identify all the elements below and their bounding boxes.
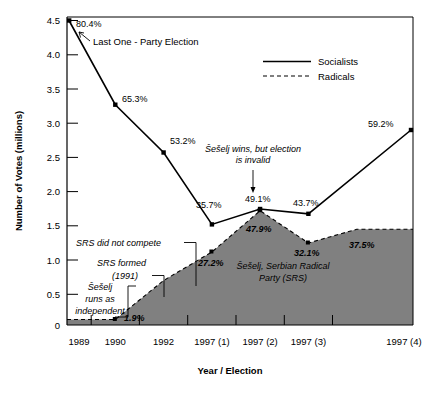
y-axis-title: Number of Votes (millions)	[13, 111, 24, 231]
y-tick-label: 0	[55, 320, 60, 331]
x-tick-label: 1997 (4)	[386, 336, 421, 347]
area-label-line2: Party (SRS)	[259, 273, 307, 283]
x-tick-label: 1997 (1)	[194, 336, 229, 347]
annotation-seselj-indep-line1: Šešelj	[88, 282, 114, 292]
annotation-seselj-wins-line1: Šešelj wins, but election	[205, 144, 301, 154]
y-tick-label: 1.5	[47, 220, 60, 231]
y-tick-label: 4.0	[47, 49, 60, 60]
socialists-marker-1990	[113, 103, 117, 107]
annotation-srs-formed-line2: (1991)	[112, 271, 138, 281]
y-tick-label: 4.5	[47, 15, 60, 26]
socialists-pct-label-1989: 80.4%	[76, 19, 102, 29]
x-tick-labels: 1989 1990 1992 1997 (1) 1997 (2) 1997 (3…	[68, 336, 421, 347]
socialists-pct-label-1990: 65.3%	[122, 94, 148, 104]
y-tick-labels: 4.5 4.0 3.5 3.0 2.5 2.0 1.5 1.0 0.5 0	[47, 15, 60, 331]
socialists-marker-1997-3	[306, 212, 310, 216]
socialists-marker-1992	[161, 150, 165, 154]
legend-label-socialists: Socialists	[318, 56, 358, 67]
radicals-pct-label-1997-3: 32.1%	[294, 248, 320, 258]
x-tick-label: 1990	[105, 336, 126, 347]
x-tick-label: 1997 (2)	[242, 336, 277, 347]
radicals-marker-1997-1	[209, 250, 213, 254]
election-votes-chart: 4.5 4.0 3.5 3.0 2.5 2.0 1.5 1.0 0.5 0 19…	[0, 0, 444, 396]
radicals-pct-label-1997-2: 47.9%	[245, 224, 272, 234]
x-axis-title: Year / Election	[198, 365, 263, 376]
legend-label-radicals: Radicals	[318, 71, 355, 82]
radicals-marker-1990	[113, 317, 117, 321]
y-tick-label: 0.5	[47, 289, 60, 300]
x-tick-label: 1989	[68, 336, 89, 347]
y-tick-label: 1.0	[47, 255, 60, 266]
y-tick-label: 3.5	[47, 84, 60, 95]
y-tick-label: 3.0	[47, 118, 60, 129]
radicals-marker-1997-3	[306, 241, 310, 245]
socialists-pct-label-1997-3: 43.7%	[293, 198, 319, 208]
annotation-seselj-indep-line2: runs as	[85, 294, 115, 304]
y-tick-label: 2.0	[47, 186, 60, 197]
radicals-pct-label-1997-4: 37.5%	[349, 240, 375, 250]
annotation-last-one-party-election: Last One - Party Election	[93, 36, 199, 47]
annotation-srs-did-not-compete: SRS did not compete	[76, 238, 161, 248]
area-label-line1: Šešelj, Serbian Radical	[236, 261, 330, 271]
y-tick-label: 2.5	[47, 152, 60, 163]
radicals-pct-label-1997-1: 27.2%	[197, 258, 224, 268]
annotation-seselj-indep-line3: independent	[75, 306, 125, 316]
socialists-pct-label-1997-2: 49.1%	[245, 194, 271, 204]
socialists-marker-1997-1	[210, 222, 214, 226]
socialists-pct-label-1997-1: 35.7%	[196, 200, 222, 210]
x-tick-label: 1992	[153, 336, 174, 347]
socialists-pct-label-1997-4: 59.2%	[368, 119, 394, 129]
annotation-srs-formed-line1: SRS formed	[97, 258, 147, 268]
annotation-seselj-wins-line2: is invalid	[236, 155, 272, 165]
radicals-pct-label-1990: 1.9%	[124, 313, 145, 323]
chart-container: 4.5 4.0 3.5 3.0 2.5 2.0 1.5 1.0 0.5 0 19…	[0, 0, 444, 396]
socialists-pct-label-1992: 53.2%	[170, 136, 196, 146]
socialists-marker-1997-2	[258, 207, 262, 211]
x-tick-label: 1997 (3)	[291, 336, 326, 347]
